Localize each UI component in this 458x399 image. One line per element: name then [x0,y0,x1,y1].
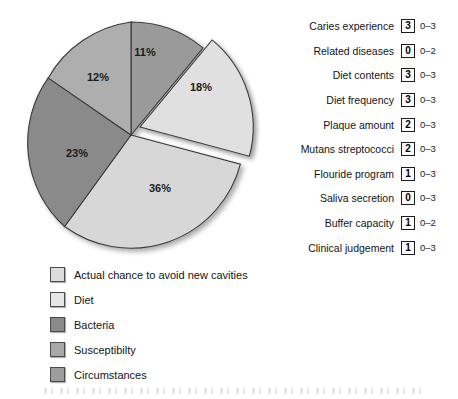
legend-label: Bacteria [74,319,114,331]
pie-chart-panel: 11% 18% 36% 23% 12% [0,0,290,262]
legend-label: Actual chance to avoid new cavities [74,269,248,281]
score-range: 0–3 [420,169,436,179]
pie-label-susceptibilty: 12% [87,71,109,83]
score-label: Clinical judgement [300,242,401,254]
legend-swatch-icon [50,317,65,332]
score-row-saliva-secretion: Saliva secretion 0 0–3 [300,186,458,211]
score-range: 0–2 [420,218,436,228]
score-value-box[interactable]: 2 [401,118,415,132]
legend-item-circumstances: Circumstances [50,362,290,387]
score-label: Plaque amount [300,119,401,131]
score-value-box[interactable]: 3 [401,93,415,107]
score-row-plaque-amount: Plaque amount 2 0–3 [300,112,458,137]
score-range: 0–3 [420,243,436,253]
score-range: 0–3 [420,21,436,31]
score-row-buffer-capacity: Buffer capacity 1 0–2 [300,211,458,236]
pie-label-circumstances: 11% [134,46,156,58]
pie-label-diet: 36% [149,182,171,194]
score-label: Diet frequency [300,94,401,106]
score-label: Related diseases [300,45,401,57]
legend-swatch-icon [50,342,65,357]
legend-swatch-icon [50,367,65,382]
chart-legend: Actual chance to avoid new cavities Diet… [50,262,290,387]
score-value-box[interactable]: 0 [401,44,415,58]
score-label: Saliva secretion [300,192,401,204]
score-value-box[interactable]: 2 [401,142,415,156]
legend-item-bacteria: Bacteria [50,312,290,337]
score-row-related-diseases: Related diseases 0 0–2 [300,39,458,64]
score-value-box[interactable]: 3 [401,19,415,33]
pie-label-bacteria: 23% [66,147,88,159]
score-label: Caries experience [300,20,401,32]
score-row-diet-frequency: Diet frequency 3 0–3 [300,88,458,113]
score-row-clinical-judgement: Clinical judgement 1 0–3 [300,235,458,260]
score-range: 0–3 [420,193,436,203]
legend-label: Susceptibilty [74,344,136,356]
score-row-flouride-program: Flouride program 1 0–3 [300,162,458,187]
score-value-box[interactable]: 1 [401,241,415,255]
score-range: 0–3 [420,70,436,80]
score-row-mutans-streptococci: Mutans streptococci 2 0–3 [300,137,458,162]
score-range: 0–3 [420,144,436,154]
scan-artifact-line [44,388,424,394]
score-row-caries-experience: Caries experience 3 0–3 [300,14,458,39]
score-label: Diet contents [300,69,401,81]
legend-item-diet: Diet [50,287,290,312]
score-range: 0–3 [420,95,436,105]
score-value-box[interactable]: 0 [401,191,415,205]
score-label: Buffer capacity [300,217,401,229]
legend-swatch-icon [50,292,65,307]
score-value-box[interactable]: 1 [401,216,415,230]
pie-chart: 11% 18% 36% 23% 12% [0,0,290,262]
legend-label: Diet [74,294,94,306]
score-label: Flouride program [300,168,401,180]
legend-label: Circumstances [74,369,147,381]
risk-score-table: Caries experience 3 0–3 Related diseases… [300,14,458,260]
pie-label-actual-chance: 18% [190,81,212,93]
score-label: Mutans streptococci [300,143,401,155]
score-value-box[interactable]: 3 [401,68,415,82]
legend-swatch-icon [50,267,65,282]
score-range: 0–2 [420,46,436,56]
legend-item-susceptibilty: Susceptibilty [50,337,290,362]
score-value-box[interactable]: 1 [401,167,415,181]
score-row-diet-contents: Diet contents 3 0–3 [300,63,458,88]
legend-item-actual-chance: Actual chance to avoid new cavities [50,262,290,287]
score-range: 0–3 [420,120,436,130]
